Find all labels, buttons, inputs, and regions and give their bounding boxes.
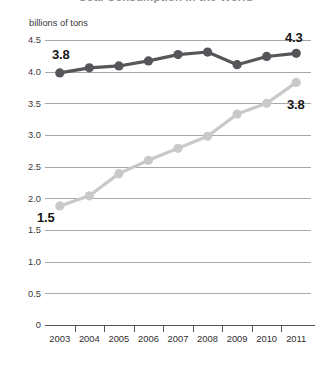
y-tick-label: 2.0 (28, 195, 41, 204)
light-series-point (203, 132, 212, 141)
x-axis-tick (281, 325, 282, 332)
light-series-point (233, 110, 242, 119)
dark-series-point (233, 60, 242, 69)
chart-title-cropped: Coal Consumption in the World (0, 0, 331, 14)
x-axis-tick (193, 325, 194, 332)
x-axis-tick (252, 325, 253, 332)
y-tick-label: 3.5 (28, 100, 41, 109)
dark-series-point (262, 52, 271, 61)
light-series-point (85, 191, 94, 200)
dark-series-point (173, 50, 182, 59)
x-tick-label: 2010 (256, 333, 277, 344)
light-series-point (55, 201, 64, 210)
dark-series-start-label: 3.8 (52, 47, 69, 62)
y-tick-label: 1.5 (28, 226, 41, 235)
x-axis-tick (134, 325, 135, 332)
dark-series-points (55, 47, 301, 77)
y-tick-label: 4.5 (28, 36, 41, 45)
light-series-end-label: 3.8 (287, 97, 304, 112)
dark-series-point (203, 47, 212, 56)
x-axis-tick-labels: 200320042005200620072008200920102011 (45, 333, 311, 349)
dark-series-end-label: 4.3 (285, 30, 302, 45)
x-tick-label: 2006 (138, 333, 159, 344)
series-plot (45, 40, 311, 325)
line-chart: Coal Consumption in the World billions o… (0, 0, 331, 365)
x-axis-tick (75, 325, 76, 332)
dark-series-point (55, 68, 64, 77)
x-axis-tick (222, 325, 223, 332)
light-series-start-label: 1.5 (37, 210, 54, 225)
x-tick-label: 2005 (108, 333, 129, 344)
light-series-point (114, 169, 123, 178)
y-tick-label: 3.0 (28, 131, 41, 140)
dark-series-point (114, 61, 123, 70)
x-tick-label: 2011 (286, 333, 306, 344)
light-series-point (262, 99, 271, 108)
y-axis-unit-label: billions of tons (29, 18, 88, 28)
light-series-point (173, 144, 182, 153)
y-tick-label: 4.0 (28, 68, 41, 77)
light-series-points (55, 78, 301, 211)
dark-series-point (144, 56, 153, 65)
light-series-point (292, 78, 301, 87)
dark-series-point (85, 63, 94, 72)
x-tick-label: 2004 (79, 333, 100, 344)
dark-series-point (292, 49, 301, 58)
y-tick-label: 0.5 (28, 290, 41, 299)
y-tick-label: 0 (36, 321, 41, 330)
x-tick-label: 2008 (197, 333, 218, 344)
x-tick-label: 2009 (227, 333, 248, 344)
x-tick-label: 2007 (168, 333, 189, 344)
chart-title: Coal Consumption in the World (0, 0, 331, 3)
plot-area: 3.8 1.5 4.3 3.8 (45, 40, 311, 325)
y-tick-label: 1.0 (28, 258, 41, 267)
y-axis-tick-labels: 4.5 4.0 3.5 3.0 2.5 2.0 1.5 1.0 0.5 0 (0, 40, 41, 326)
x-axis-tick (163, 325, 164, 332)
y-tick-label: 2.5 (28, 163, 41, 172)
x-axis-tick (104, 325, 105, 332)
x-tick-label: 2003 (49, 333, 70, 344)
x-axis-ticks (45, 325, 311, 333)
light-series-point (144, 156, 153, 165)
